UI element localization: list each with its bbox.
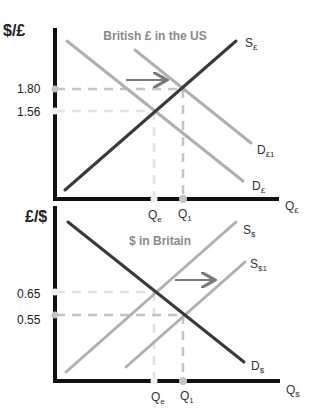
x-axis-label-top: Q£ xyxy=(285,199,299,215)
exchange-rate-charts: $/£ British £ in the US 1.80 1.56 S£ D£1… xyxy=(0,0,316,419)
tick-dot-qe-bottom xyxy=(151,378,158,385)
top-chart-title: British £ in the US xyxy=(103,29,206,43)
tick-dot-qe-top xyxy=(151,196,158,203)
y-tick-1-56: 1.56 xyxy=(17,105,41,119)
label-supply-pound: S£ xyxy=(245,36,258,52)
y-tick-0-65: 0.65 xyxy=(17,287,41,301)
label-demand-dollar: D$ xyxy=(251,359,265,375)
bottom-chart: £/$ $ in Britain 0.65 0.55 S$ S$1 D$ Q$ … xyxy=(17,208,300,406)
label-demand-pound-1: D£1 xyxy=(257,143,275,159)
tick-dot-0-55 xyxy=(52,312,59,319)
label-supply-dollar: S$ xyxy=(243,223,256,239)
tick-dot-1-56 xyxy=(52,108,59,115)
bottom-chart-title: $ in Britain xyxy=(129,234,191,248)
demand-curve-pound-1 xyxy=(135,50,251,143)
y-tick-0-55: 0.55 xyxy=(17,313,41,327)
x-tick-q1-bottom: Q1 xyxy=(180,389,194,405)
tick-dot-q1-top xyxy=(179,195,187,203)
x-axis-label-bottom: Q$ xyxy=(286,383,300,399)
x-tick-qe-bottom: Qe xyxy=(151,390,165,406)
top-chart: $/£ British £ in the US 1.80 1.56 S£ D£1… xyxy=(3,22,299,224)
tick-dot-q1-bottom xyxy=(179,377,187,385)
y-axis-label-bottom: £/$ xyxy=(25,208,47,225)
top-axes xyxy=(55,30,277,199)
y-axis-label-top: $/£ xyxy=(3,22,25,39)
y-tick-1-80: 1.80 xyxy=(17,82,41,96)
label-demand-pound: D£ xyxy=(252,179,266,195)
x-tick-q1-top: Q1 xyxy=(178,207,192,223)
x-tick-qe-top: Qe xyxy=(148,208,162,224)
tick-dot-0-65 xyxy=(52,289,59,296)
tick-dot-1-80 xyxy=(52,86,59,93)
label-supply-dollar-1: S$1 xyxy=(250,257,267,273)
